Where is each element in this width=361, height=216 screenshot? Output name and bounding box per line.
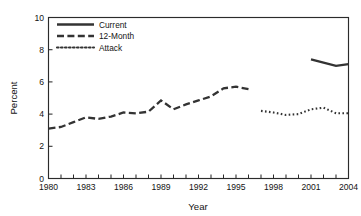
legend-label-12-month: 12-Month	[99, 31, 134, 41]
y-axis-tick-labels: 0246810	[34, 13, 44, 184]
legend-label-attack: Attack	[99, 43, 123, 53]
x-tick-label: 2001	[301, 182, 320, 192]
line-chart: 0246810 19801983198619891992199519982001…	[0, 0, 361, 216]
chart-container: 0246810 19801983198619891992199519982001…	[0, 0, 361, 216]
y-axis-ticks	[49, 18, 53, 179]
legend-label-current: Current	[99, 20, 127, 30]
x-tick-label: 1995	[226, 182, 245, 192]
y-tick-label: 4	[39, 109, 44, 119]
y-tick-label: 6	[39, 77, 44, 87]
y-axis-title: Percent	[8, 81, 19, 114]
x-axis-tick-labels: 198019831986198919921995199820012004	[39, 182, 358, 192]
x-tick-label: 1986	[114, 182, 133, 192]
chart-legend: Current12-MonthAttack	[57, 20, 134, 53]
x-tick-label: 1989	[151, 182, 170, 192]
x-axis-ticks	[49, 175, 349, 179]
series-group	[49, 59, 349, 128]
series-current	[311, 59, 349, 65]
y-tick-label: 2	[39, 141, 44, 151]
x-tick-label: 2004	[339, 182, 358, 192]
plot-frame	[49, 18, 349, 179]
x-tick-label: 1998	[264, 182, 283, 192]
y-tick-label: 8	[39, 45, 44, 55]
x-tick-label: 1983	[76, 182, 95, 192]
x-tick-label: 1980	[39, 182, 58, 192]
y-tick-label: 10	[34, 13, 44, 23]
x-tick-label: 1992	[189, 182, 208, 192]
series-12-month	[49, 87, 249, 129]
series-attack	[261, 108, 349, 115]
x-axis-title: Year	[188, 201, 208, 212]
